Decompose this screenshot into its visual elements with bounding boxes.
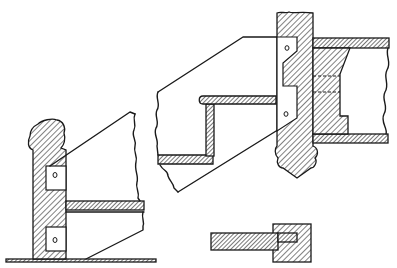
tread-tongue-section — [211, 233, 278, 250]
joint-section-view — [211, 224, 311, 262]
bolt-hole — [285, 46, 289, 51]
tread-section — [66, 201, 144, 210]
top-rail — [313, 38, 389, 48]
stringer-break-left — [155, 92, 158, 155]
bolt-hole — [53, 238, 57, 243]
stringer-outline — [158, 37, 277, 92]
riser — [206, 104, 214, 156]
housing-block — [313, 48, 350, 134]
stringer-outline-lower — [86, 212, 144, 259]
stringer-break-bottom — [160, 165, 178, 192]
upper-bracket-plate — [46, 166, 66, 190]
bolt-hole — [53, 173, 57, 178]
drawing-canvas — [0, 0, 397, 268]
post-elevation-view — [6, 112, 156, 262]
upper-tread — [199, 96, 276, 104]
post-section — [273, 224, 311, 262]
lower-tread — [158, 155, 213, 164]
right-break-line — [383, 48, 389, 134]
technical-drawing — [0, 0, 397, 268]
bottom-rail — [313, 134, 388, 143]
stair-step-detail-view — [155, 12, 389, 192]
stringer-break-line — [133, 114, 140, 201]
bolt-hole — [284, 112, 288, 117]
tongue-housing — [278, 233, 297, 242]
floor-line — [6, 259, 156, 262]
